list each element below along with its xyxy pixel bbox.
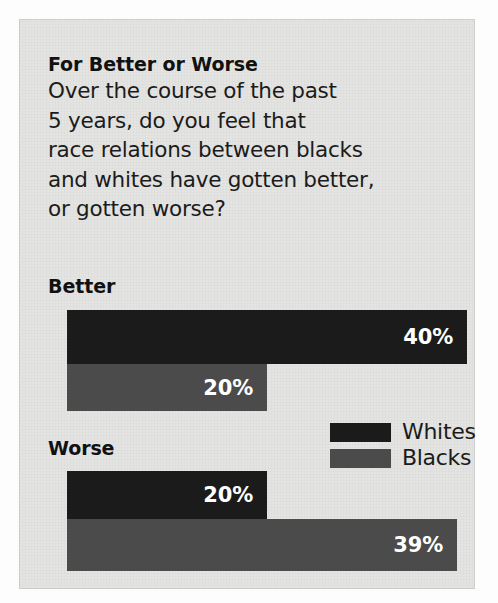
bar-better-whites: 40%	[67, 310, 467, 364]
legend-item-whites: Whites	[330, 419, 476, 445]
question-line-3: race relations between blacks	[48, 135, 458, 165]
bar-better-blacks: 20%	[67, 364, 267, 411]
infographic-panel: For Better or Worse Over the course of t…	[19, 19, 475, 589]
bar-value-worse-whites: 20%	[203, 483, 267, 507]
bar-value-better-whites: 40%	[403, 325, 467, 349]
infographic-page: For Better or Worse Over the course of t…	[0, 0, 498, 603]
legend-swatch-blacks-icon	[330, 449, 391, 468]
bar-worse-whites: 20%	[67, 471, 267, 519]
question-line-1: Over the course of the past	[48, 76, 458, 106]
legend-swatch-whites-icon	[330, 423, 391, 442]
question-line-4: and whites have gotten better,	[48, 165, 458, 195]
legend-label-blacks: Blacks	[402, 446, 471, 470]
group-label-better: Better	[48, 275, 115, 297]
page-title: For Better or Worse	[48, 52, 448, 76]
bar-value-better-blacks: 20%	[203, 376, 267, 400]
group-label-worse: Worse	[48, 437, 114, 459]
question-text: Over the course of the past 5 years, do …	[48, 76, 458, 224]
question-line-5: or gotten worse?	[48, 194, 458, 224]
question-line-2: 5 years, do you feel that	[48, 106, 458, 136]
bar-value-worse-blacks: 39%	[393, 533, 457, 557]
chart-legend: Whites Blacks	[330, 419, 476, 471]
bar-worse-blacks: 39%	[67, 519, 457, 571]
legend-label-whites: Whites	[402, 420, 476, 444]
legend-item-blacks: Blacks	[330, 445, 476, 471]
